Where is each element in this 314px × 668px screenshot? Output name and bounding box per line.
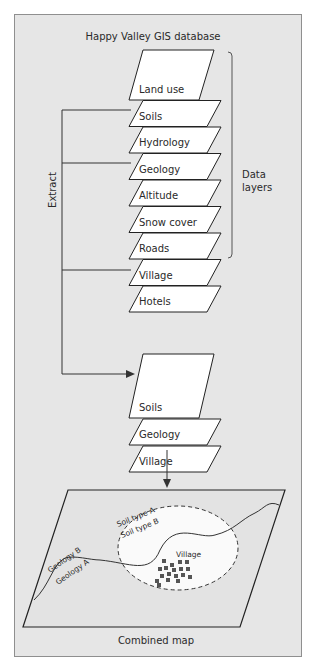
layer-land-use-label: Land use xyxy=(139,84,184,95)
layer-hotels-label: Hotels xyxy=(139,296,171,307)
data-layers-label-2: layers xyxy=(242,182,272,193)
layer-hotels: Hotels xyxy=(129,286,221,312)
data-layers-label-1: Data xyxy=(242,169,266,180)
layer-roads: Roads xyxy=(129,233,221,259)
layer-hydrology-label: Hydrology xyxy=(139,137,190,148)
gis-diagram: Happy Valley GIS database Data layers Ex… xyxy=(0,0,314,668)
layer-altitude-label: Altitude xyxy=(139,190,178,201)
layer-village: Village xyxy=(129,260,221,286)
layer-hydrology: Hydrology xyxy=(129,127,221,153)
extracted-layer-stack: VillageGeologySoils xyxy=(129,354,221,472)
layer-altitude: Altitude xyxy=(129,180,221,206)
layer-snow-cover: Snow cover xyxy=(129,207,221,233)
data-layers-bracket xyxy=(228,52,232,258)
layer-snow-cover-label: Snow cover xyxy=(139,217,198,228)
extracted-layer-geology-label: Geology xyxy=(139,429,180,440)
layer-geology: Geology xyxy=(129,154,221,180)
extracted-layer-village-label: Village xyxy=(139,456,173,467)
layer-roads-label: Roads xyxy=(139,243,169,254)
extracted-layer-soils: Soils xyxy=(129,354,214,418)
layer-soils-label: Soils xyxy=(139,111,162,122)
layer-land-use: Land use xyxy=(129,50,214,100)
layer-geology-label: Geology xyxy=(139,164,180,175)
map-caption: Combined map xyxy=(118,635,194,646)
extract-label: Extract xyxy=(47,172,58,208)
extract-arrow-icon xyxy=(126,370,135,378)
combine-arrow-icon xyxy=(163,479,171,488)
database-layer-stack: HotelsVillageRoadsSnow coverAltitudeGeol… xyxy=(129,50,221,312)
extracted-layer-geology: Geology xyxy=(129,419,221,445)
village-label: Village xyxy=(176,550,202,559)
extracted-layer-village: Village xyxy=(129,446,221,472)
combined-map: Soil type A Soil type B Geology B Geolog… xyxy=(23,490,285,646)
extract-connector xyxy=(62,110,131,374)
diagram-title: Happy Valley GIS database xyxy=(85,31,220,42)
layer-village-label: Village xyxy=(139,270,173,281)
layer-soils: Soils xyxy=(129,101,221,127)
extracted-layer-soils-label: Soils xyxy=(139,402,162,413)
